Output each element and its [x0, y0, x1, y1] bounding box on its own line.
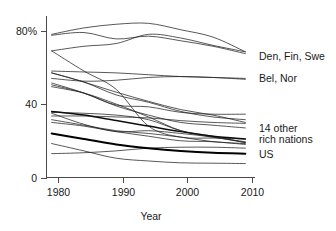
annotation-14-other-rich-nations-2: rich nations [259, 133, 313, 145]
series-line [52, 32, 246, 53]
series-line [52, 34, 246, 52]
y-tick-label: 0 [31, 172, 37, 184]
x-axis-ticks: 1980199020002010 [47, 178, 265, 199]
series-line [52, 23, 246, 52]
y-axis-ticks: 04080% [16, 25, 47, 184]
x-axis-title: Year [140, 210, 162, 222]
line-chart: 04080% 1980199020002010 Den, Fin, SweBel… [0, 0, 336, 231]
x-tick-label: 1980 [47, 186, 71, 198]
y-tick-label: 40 [25, 98, 37, 110]
series-lines [52, 23, 246, 164]
annotation-bel-nor: Bel, Nor [259, 72, 297, 84]
chart-canvas: 04080% 1980199020002010 Den, Fin, SweBel… [0, 0, 336, 231]
annotation-den-fin-swe: Den, Fin, Swe [259, 50, 325, 62]
series-line [52, 73, 246, 120]
y-tick-label: 80% [16, 25, 37, 37]
series-annotations: Den, Fin, SweBel, Nor14 otherrich nation… [259, 50, 325, 159]
x-tick-label: 2000 [176, 186, 200, 198]
series-line [52, 85, 246, 114]
x-tick-label: 1990 [112, 186, 136, 198]
x-tick-label: 2010 [241, 186, 265, 198]
annotation-us: US [259, 148, 274, 160]
series-line [52, 83, 246, 128]
